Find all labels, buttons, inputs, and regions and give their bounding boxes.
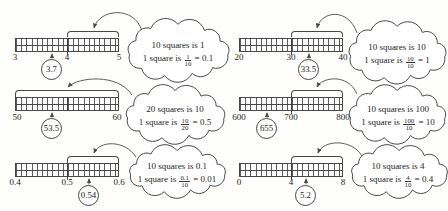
grid-strip [239, 38, 343, 52]
cloud-line2: 1 square is 10010 = 10 [352, 116, 444, 132]
cloud-line1: 20 squares is 10 [129, 103, 221, 115]
range-bracket [15, 90, 119, 97]
cloud-note: 20 squares is 10 1 square is 1020 = 0.5 [129, 103, 221, 132]
cloud-line1: 10 squares is 0.1 [131, 160, 223, 172]
cloud-line2-prefix: 1 square is [139, 117, 178, 127]
curved-arrow [318, 143, 362, 156]
grid-strip [239, 97, 343, 111]
grid-strip [239, 163, 343, 177]
grid-strip [15, 97, 119, 111]
fraction: 110 [185, 54, 192, 68]
tick-label: 0.5 [61, 178, 72, 187]
fraction: 0.110 [179, 175, 190, 189]
cloud-line2-prefix: 1 square is [138, 174, 177, 184]
fraction-denominator: 10 [179, 182, 190, 189]
tick-label: 60 [113, 113, 122, 122]
tick-label: 600 [232, 113, 246, 122]
value-circle: 0.54 [78, 185, 99, 206]
fraction-denominator: 10 [403, 125, 415, 132]
cloud-line2: 1 square is 1010 = 1 [352, 54, 442, 70]
unit-divider [291, 164, 292, 176]
cloud-line2-suffix: = 0.4 [415, 174, 434, 184]
fraction: 410 [405, 175, 412, 189]
value-circle: 33.5 [298, 59, 319, 80]
range-bracket [67, 156, 119, 163]
unit-divider [291, 39, 292, 51]
tick-label: 700 [284, 113, 298, 122]
value-circle: 53.5 [41, 118, 62, 139]
grid-strip [15, 163, 119, 177]
fraction-denominator: 10 [405, 182, 412, 189]
tick-label: 0 [237, 178, 242, 187]
tick-label: 8 [341, 178, 346, 187]
cloud-line2-suffix: = 0.01 [193, 174, 216, 184]
value-circle: 5.2 [295, 185, 316, 206]
cloud-line2: 1 square is 0.110 = 0.01 [131, 173, 223, 189]
curved-arrow [94, 13, 142, 31]
cloud-line2-prefix: 1 square is [361, 117, 400, 127]
tick-label: 0.6 [113, 178, 124, 187]
unit-divider [67, 98, 68, 110]
cloud-line2-prefix: 1 square is [364, 55, 403, 65]
cloud-line2-suffix: = 0.1 [195, 53, 214, 63]
fraction: 10010 [403, 118, 415, 132]
curved-arrow [94, 144, 136, 157]
tick-label: 800 [336, 113, 350, 122]
squared-paper-number-line-figure: 3 4 5 3.7 10 squares is 1 1 square is 11… [0, 0, 448, 211]
cloud-line1: 10 squares is 4 [352, 160, 444, 172]
value-circle: 655 [256, 118, 277, 139]
cloud-note: 10 squares is 4 1 square is 410 = 0.4 [352, 160, 444, 189]
unit-divider [67, 39, 68, 51]
cloud-note: 10 squares is 100 1 square is 10010 = 10 [352, 103, 444, 132]
cloud-line1: 10 squares is 10 [352, 41, 442, 53]
cloud-line1: 10 squares is 100 [352, 103, 444, 115]
cloud-line2: 1 square is 410 = 0.4 [352, 173, 444, 189]
cloud-line2: 1 square is 1020 = 0.5 [129, 116, 221, 132]
cloud-note: 10 squares is 0.1 1 square is 0.110 = 0.… [131, 160, 223, 189]
cloud-line2: 1 square is 110 = 0.1 [133, 52, 223, 68]
fraction-denominator: 10 [185, 61, 192, 68]
cloud-line2-prefix: 1 square is [363, 174, 402, 184]
fraction-denominator: 20 [181, 125, 190, 132]
cloud-line2-suffix: = 1 [418, 55, 430, 65]
tick-label: 5 [117, 53, 122, 62]
tick-label: 3 [13, 53, 18, 62]
tick-label: 50 [13, 113, 22, 122]
range-bracket [67, 31, 119, 37]
tick-label: 4 [65, 53, 70, 62]
grid-strip [15, 38, 119, 52]
fraction: 1010 [406, 56, 415, 70]
unit-divider [291, 98, 292, 110]
unit-divider [67, 164, 68, 176]
tick-label: 20 [235, 53, 244, 62]
range-bracket [291, 156, 343, 163]
value-circle: 3.7 [41, 59, 62, 80]
cloud-line2-suffix: = 0.5 [193, 117, 212, 127]
tick-label: 0.4 [9, 178, 20, 187]
cloud-note: 10 squares is 1 1 square is 110 = 0.1 [133, 39, 223, 68]
tick-label: 30 [287, 53, 296, 62]
tick-label: 4 [289, 178, 294, 187]
cloud-line2-prefix: 1 square is [143, 53, 182, 63]
cloud-line1: 10 squares is 1 [133, 39, 223, 51]
cloud-line2-suffix: = 10 [418, 117, 434, 127]
fraction-denominator: 10 [406, 63, 415, 70]
cloud-note: 10 squares is 10 1 square is 1010 = 1 [352, 41, 442, 70]
range-bracket [291, 90, 343, 97]
fraction: 1020 [181, 118, 190, 132]
range-bracket [291, 31, 343, 37]
tick-label: 40 [339, 53, 348, 62]
